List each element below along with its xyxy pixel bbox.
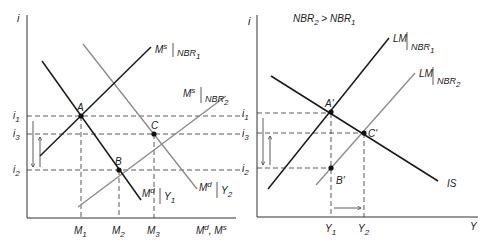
svg-text:Y2: Y2 bbox=[221, 185, 233, 199]
md-y1-curve bbox=[42, 61, 141, 200]
tick-i3-left: i3 bbox=[13, 128, 20, 142]
svg-text:Ms: Ms bbox=[155, 42, 167, 55]
point-c-prime bbox=[361, 130, 366, 135]
point-b bbox=[116, 167, 121, 172]
is-curve bbox=[271, 76, 438, 181]
md-y2-curve bbox=[83, 44, 197, 189]
svg-text:LM: LM bbox=[419, 68, 434, 79]
is-lm-panel: i NBR2 > NBR1 A' B' C' i1 i3 i2 Y1 Y2 Y bbox=[242, 13, 478, 237]
tick-i2-right: i2 bbox=[242, 163, 249, 177]
label-ms-nbr1: Ms NBR1 bbox=[155, 42, 200, 61]
label-b-prime: B' bbox=[336, 175, 346, 186]
label-c-prime: C' bbox=[368, 128, 378, 139]
tick-m1: M1 bbox=[74, 225, 87, 239]
point-a-prime bbox=[328, 109, 333, 114]
tick-i1-right: i1 bbox=[242, 108, 249, 122]
point-b-prime bbox=[328, 165, 333, 170]
label-b: B bbox=[115, 156, 122, 167]
label-a: A bbox=[76, 102, 84, 113]
point-a bbox=[78, 113, 83, 118]
label-md-y2: Md Y2 bbox=[199, 180, 233, 199]
label-c: C bbox=[151, 120, 159, 131]
label-lm-nbr2: LM NBR2 bbox=[419, 67, 461, 89]
svg-text:LM: LM bbox=[393, 33, 408, 44]
nbr-comparison-title: NBR2 > NBR1 bbox=[293, 13, 356, 27]
right-y-axis-label: i bbox=[248, 15, 251, 27]
svg-text:NBR1: NBR1 bbox=[177, 48, 200, 61]
left-x-axis-label: Md, Ms bbox=[196, 223, 227, 236]
svg-text:NBR2: NBR2 bbox=[437, 76, 461, 89]
is-lm-money-market-diagram: i A B C i1 i3 i2 M1 M2 M3 Md, Ms bbox=[0, 0, 488, 247]
svg-text:Y1: Y1 bbox=[164, 191, 175, 205]
svg-text:Md: Md bbox=[199, 180, 212, 193]
tick-y1: Y1 bbox=[325, 223, 336, 237]
svg-text:NBR1: NBR1 bbox=[411, 42, 434, 55]
label-lm-nbr1: LM NBR1 bbox=[393, 32, 434, 55]
tick-i2-left: i2 bbox=[13, 164, 20, 178]
label-md-y1: Md Y1 bbox=[142, 186, 175, 205]
tick-y2: Y2 bbox=[358, 223, 370, 237]
tick-m3: M3 bbox=[147, 225, 160, 239]
label-ms-nbr2: Ms NBR2 bbox=[183, 86, 229, 107]
tick-i1-left: i1 bbox=[13, 110, 20, 124]
svg-text:Ms: Ms bbox=[183, 86, 195, 99]
lm-nbr1-curve bbox=[268, 38, 389, 189]
money-market-panel: i A B C i1 i3 i2 M1 M2 M3 Md, Ms bbox=[13, 12, 244, 239]
label-is: IS bbox=[447, 178, 457, 189]
left-y-axis-label: i bbox=[17, 12, 20, 24]
label-a-prime: A' bbox=[324, 98, 335, 109]
ms-nbr1-curve bbox=[40, 47, 151, 156]
svg-text:Md: Md bbox=[142, 186, 155, 199]
tick-m2: M2 bbox=[112, 225, 125, 239]
tick-i3-right: i3 bbox=[242, 128, 249, 142]
point-c bbox=[151, 131, 156, 136]
right-x-axis-label: Y bbox=[470, 221, 478, 232]
